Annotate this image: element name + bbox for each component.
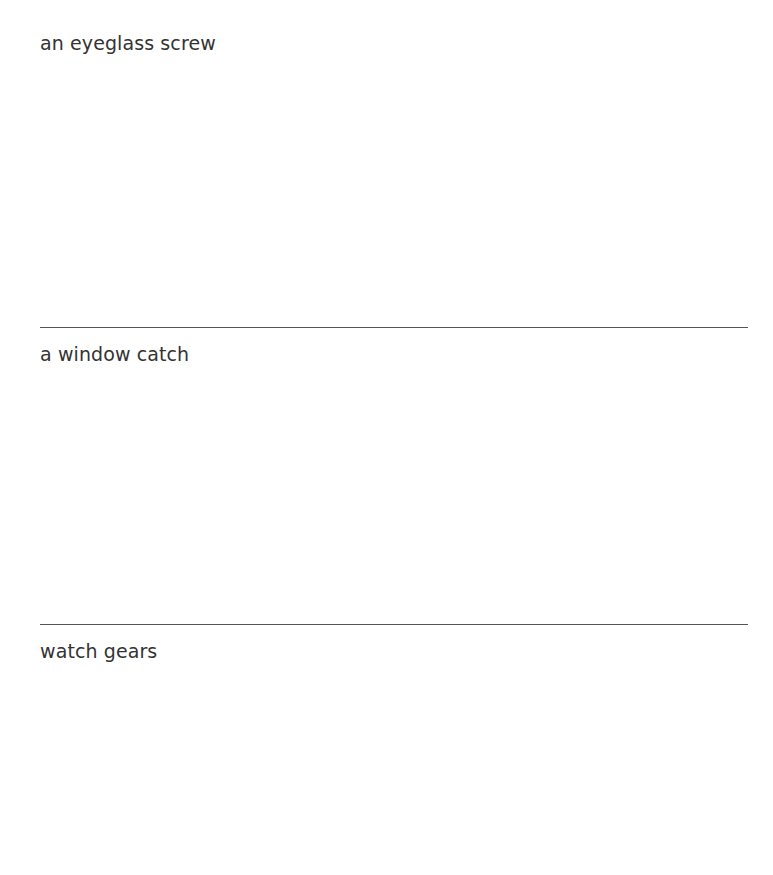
section-eyeglass-screw: an eyeglass screw [40, 31, 748, 55]
section-label: watch gears [40, 639, 748, 663]
section-watch-gears: watch gears [40, 639, 748, 663]
section-label: a window catch [40, 342, 748, 366]
section-divider [40, 624, 748, 625]
section-divider [40, 327, 748, 328]
section-label: an eyeglass screw [40, 31, 748, 55]
section-window-catch: a window catch [40, 342, 748, 366]
